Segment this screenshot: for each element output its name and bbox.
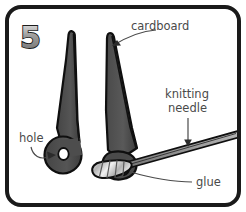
knitting-needle-label-line1: knitting (165, 87, 209, 101)
illustration-screenshot: 5 cardboard knitting needle hole (0, 0, 246, 212)
glue-label-text: glue (196, 175, 221, 189)
hole-label-text: hole (19, 131, 44, 145)
step-number-badge: 5 (20, 20, 41, 55)
knitting-needle-label-line2: needle (168, 101, 207, 115)
step-5-instruction-illustration: 5 cardboard knitting needle hole (0, 0, 246, 212)
cardboard-label-text: cardboard (131, 19, 189, 33)
hole-opening (58, 148, 68, 160)
